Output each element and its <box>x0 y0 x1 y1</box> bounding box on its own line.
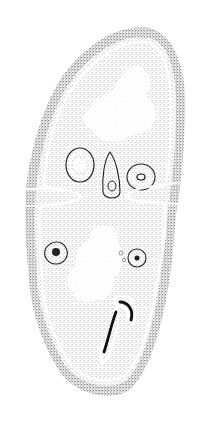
left-small-duct <box>45 242 68 264</box>
cross-section-illustration <box>0 0 215 443</box>
left-oval-duct <box>66 148 94 182</box>
